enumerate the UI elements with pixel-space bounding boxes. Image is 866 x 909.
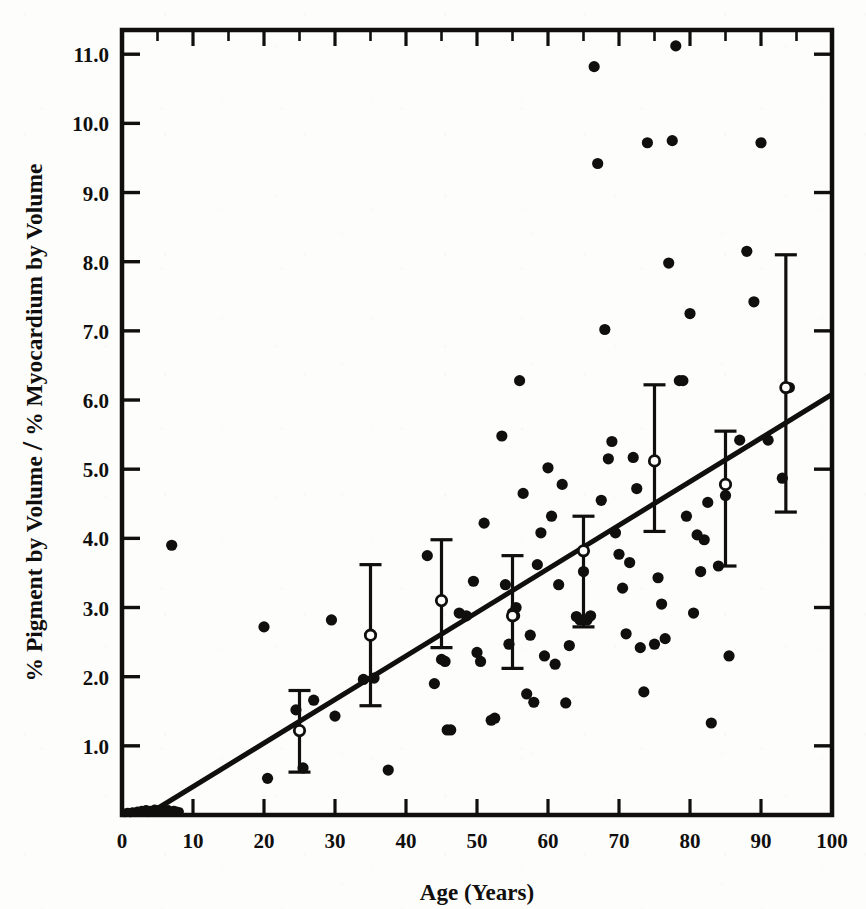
data-point [702,497,713,508]
data-point [262,773,273,784]
y-tick-label: 7.0 [83,320,109,344]
x-tick-label: 70 [609,829,630,853]
x-axis-title: Age (Years) [420,880,534,905]
data-point [461,610,472,621]
data-point [329,710,340,721]
data-point [546,511,557,522]
data-point [589,61,600,72]
data-point [525,630,536,641]
data-point [542,462,553,473]
data-point [660,633,671,644]
data-point [599,324,610,335]
data-point [610,527,621,538]
data-point [175,807,184,816]
x-tick-label: 80 [680,829,701,853]
x-tick-label: 90 [751,829,772,853]
y-tick-label: 2.0 [83,666,109,690]
y-tick-label: 8.0 [83,251,109,275]
data-point [755,137,766,148]
mean-marker [781,382,791,392]
data-point [635,642,646,653]
data-point [624,557,635,568]
y-axis-title-part-myocardium: % Myocardium by Volume [21,164,47,436]
data-point [553,579,564,590]
data-point [383,764,394,775]
data-point [496,430,507,441]
mean-marker [294,725,304,735]
y-tick-label: 5.0 [83,458,109,482]
data-point [429,678,440,689]
y-tick-label: 10.0 [72,112,109,136]
data-point [535,527,546,538]
error-bar [715,431,737,566]
x-tick-label: 50 [467,829,488,853]
x-tick-label: 20 [254,829,275,853]
data-point [422,550,433,561]
data-point [652,572,663,583]
data-point [528,697,539,708]
scatter-plot-canvas: 01020304050607080901001.02.03.04.05.06.0… [0,0,866,909]
y-tick-label: 1.0 [83,735,109,759]
data-point [500,579,511,590]
y-axis-title-part-pigment: % Pigment by Volume [21,456,47,681]
x-tick-label: 60 [538,829,559,853]
y-axis-title: % Pigment by Volume/% Myocardium by Volu… [15,164,48,682]
error-bar [775,255,797,512]
data-point [688,607,699,618]
error-bar [502,556,524,669]
data-point [748,296,759,307]
data-point [166,540,177,551]
data-point [603,453,614,464]
data-point [358,674,369,685]
data-point [550,659,561,670]
data-point [649,639,660,650]
data-point [489,713,500,724]
data-point [439,656,450,667]
mean-marker [578,546,588,556]
error-bar [289,691,311,773]
data-point [585,610,596,621]
x-axis-title-text: Age (Years) [420,880,534,905]
data-point [592,158,603,169]
data-point [695,566,706,577]
data-point [532,559,543,570]
x-axis-ticks [158,30,797,815]
x-tick-label: 10 [183,829,204,853]
data-point [606,436,617,447]
x-tick-label: 100 [816,829,848,853]
data-point [308,695,319,706]
data-point [681,511,692,522]
data-point [445,724,456,735]
data-point [667,135,678,146]
y-tick-label: 6.0 [83,389,109,413]
data-point [723,650,734,661]
data-point [684,308,695,319]
x-tick-label: 0 [117,829,128,853]
data-point [628,452,639,463]
data-point [258,621,269,632]
data-point [560,697,571,708]
data-point [734,435,745,446]
scatter-points [120,40,795,817]
data-point [656,598,667,609]
data-point [475,656,486,667]
data-point [596,495,607,506]
data-point [617,583,628,594]
data-point [479,518,490,529]
data-point [763,435,774,446]
mean-marker [649,456,659,466]
x-tick-label: 40 [396,829,417,853]
data-point [741,246,752,257]
data-point [638,686,649,697]
y-axis-ticks [122,54,832,746]
mean-marker [507,611,517,621]
data-point [613,549,624,560]
y-tick-label: 11.0 [73,43,109,67]
data-point [699,534,710,545]
data-point [642,137,653,148]
y-tick-label: 9.0 [83,182,109,206]
mean-marker [720,479,730,489]
data-point [670,40,681,51]
data-point [621,628,632,639]
data-point [706,717,717,728]
